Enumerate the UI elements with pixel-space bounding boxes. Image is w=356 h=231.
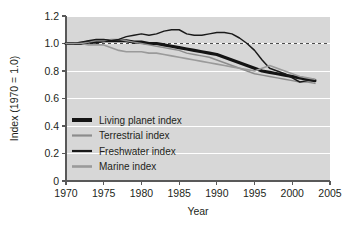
x-axis-label: Year: [187, 205, 209, 217]
y-tick-label: 0.4: [44, 120, 59, 132]
y-tick-label: 0: [53, 175, 59, 187]
y-tick-label: 1.0: [44, 37, 59, 49]
y-tick-label: 1.2: [44, 10, 59, 22]
y-tick-label: 0.6: [44, 92, 59, 104]
x-tick-label: 1990: [205, 187, 229, 199]
x-tick-label: 1975: [92, 187, 116, 199]
x-tick-label: 1970: [54, 187, 78, 199]
x-tick-label: 1985: [167, 187, 191, 199]
x-tick-label: 2000: [281, 187, 305, 199]
legend-label: Marine index: [99, 161, 156, 172]
x-tick-label: 1980: [130, 187, 154, 199]
y-tick-label: 0.2: [44, 147, 59, 159]
y-axis-ticks: 00.20.40.60.81.01.2: [44, 10, 66, 187]
legend-label: Living planet index: [99, 115, 182, 126]
legend-label: Freshwater index: [99, 146, 176, 157]
x-tick-label: 2005: [318, 187, 342, 199]
x-axis-ticks: 19701975198019851990199520002005: [54, 181, 342, 199]
y-tick-label: 0.8: [44, 65, 59, 77]
x-tick-label: 1995: [243, 187, 267, 199]
legend-label: Terrestrial index: [99, 130, 170, 141]
y-axis-label: Index (1970 = 1.0): [8, 56, 20, 142]
line-chart: 00.20.40.60.81.01.2197019751980198519901…: [0, 0, 356, 231]
chart-figure: 00.20.40.60.81.01.2197019751980198519901…: [0, 0, 356, 231]
